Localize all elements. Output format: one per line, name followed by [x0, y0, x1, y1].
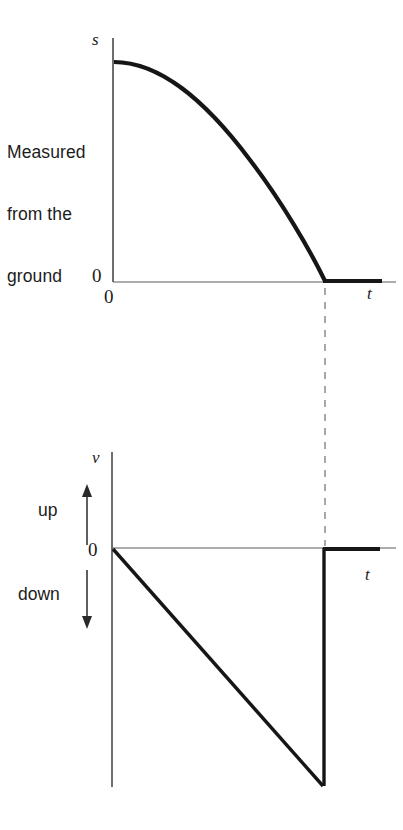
lower-y-axis-label: v: [92, 448, 100, 468]
upper-y-axis-label: s: [92, 30, 99, 50]
caption-line-3: ground: [7, 266, 86, 287]
lower-x-axis-label: t: [365, 565, 370, 585]
up-direction-arrow: [82, 484, 92, 545]
upper-chart-group: [113, 38, 396, 282]
position-curve: [114, 62, 325, 281]
upper-y-zero-label: 0: [92, 265, 102, 287]
figure-container: s Measured from the ground 0 0 t v up 0 …: [0, 0, 403, 830]
up-direction-label: up: [38, 500, 57, 521]
upper-x-axis-label: t: [367, 284, 372, 304]
down-direction-arrow: [82, 570, 92, 629]
down-direction-label: down: [18, 584, 60, 605]
upper-x-origin-label: 0: [104, 286, 114, 308]
velocity-ramp: [113, 549, 323, 786]
upper-chart-caption: Measured from the ground: [7, 101, 86, 328]
caption-line-2: from the: [7, 204, 86, 225]
lower-chart-group: [82, 452, 396, 787]
caption-line-1: Measured: [7, 142, 86, 163]
lower-zero-label: 0: [88, 539, 98, 561]
